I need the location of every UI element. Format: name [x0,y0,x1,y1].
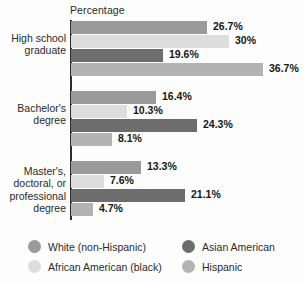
legend-swatch-icon [182,260,195,273]
bar-row: 21.1% [71,189,305,202]
bar-white-high-school[interactable] [71,21,207,34]
bar-hispanic-advanced-degree[interactable] [71,203,93,216]
legend-label-hispanic: Hispanic [202,261,242,273]
bar-value-asian-american-high-school: 19.6% [169,48,199,60]
category-label-line: doctoral, or [0,177,66,189]
category-label-line: High school [0,32,66,44]
bar-white-advanced-degree[interactable] [71,161,141,174]
category-label-bachelors: Bachelor's degree [0,102,66,127]
category-label-line: degree [0,202,66,214]
bar-row: 16.4% [71,91,305,104]
bar-value-african-american-high-school: 30% [235,34,256,46]
bar-asian-american-advanced-degree[interactable] [71,189,185,202]
bar-row: 7.6% [71,175,305,188]
bar-asian-american-bachelors[interactable] [71,119,197,132]
bar-value-hispanic-high-school: 36.7% [269,62,299,74]
legend-label-african-american: African American (black) [48,261,162,273]
bar-group-high-school: High school graduate 26.7% 30% 19.6% 36.… [0,20,305,80]
legend-item-white[interactable]: White (non-Hispanic) [28,240,146,253]
category-label-line: Bachelor's [0,102,66,114]
legend-label-asian-american: Asian American [202,241,275,253]
legend-swatch-icon [182,240,195,253]
legend-swatch-icon [28,240,41,253]
x-axis-title: Percentage [70,4,125,16]
bar-row: 4.7% [71,203,305,216]
bar-row: 10.3% [71,105,305,118]
bar-african-american-advanced-degree[interactable] [71,175,104,188]
bar-value-african-american-advanced-degree: 7.6% [110,174,134,186]
plot-area: High school graduate 26.7% 30% 19.6% 36.… [0,20,305,225]
legend-item-asian-american[interactable]: Asian American [182,240,275,253]
bar-hispanic-high-school[interactable] [71,63,263,76]
category-label-line: graduate [0,44,66,56]
bar-row: 26.7% [71,21,305,34]
legend-swatch-icon [28,260,41,273]
chart-legend: White (non-Hispanic) African American (b… [28,238,300,280]
bar-row: 19.6% [71,49,305,62]
bar-chart: Percentage High school graduate 26.7% 30… [0,0,305,284]
bar-row: 30% [71,35,305,48]
bar-value-white-bachelors: 16.4% [162,90,192,102]
bar-african-american-bachelors[interactable] [71,105,127,118]
legend-item-african-american[interactable]: African American (black) [28,260,162,273]
category-label-advanced-degree: Master's, doctoral, or professional degr… [0,165,66,215]
category-label-line: Master's, [0,165,66,177]
bar-value-white-high-school: 26.7% [213,20,243,32]
bar-hispanic-bachelors[interactable] [71,133,112,146]
bar-value-hispanic-advanced-degree: 4.7% [99,202,123,214]
bar-value-african-american-bachelors: 10.3% [133,104,163,116]
bar-value-white-advanced-degree: 13.3% [147,160,177,172]
bar-value-asian-american-advanced-degree: 21.1% [191,188,221,200]
category-label-line: degree [0,114,66,126]
bar-row: 36.7% [71,63,305,76]
bar-row: 13.3% [71,161,305,174]
bar-white-bachelors[interactable] [71,91,156,104]
legend-item-hispanic[interactable]: Hispanic [182,260,242,273]
category-label-line: professional [0,190,66,202]
bar-african-american-high-school[interactable] [71,35,229,48]
bar-row: 8.1% [71,133,305,146]
bar-group-advanced-degree: Master's, doctoral, or professional degr… [0,160,305,222]
category-label-high-school: High school graduate [0,32,66,57]
bar-row: 24.3% [71,119,305,132]
legend-label-white: White (non-Hispanic) [48,241,146,253]
bar-value-asian-american-bachelors: 24.3% [203,118,233,130]
bar-group-bachelors: Bachelor's degree 16.4% 10.3% 24.3% 8.1% [0,90,305,150]
bar-asian-american-high-school[interactable] [71,49,163,62]
bar-value-hispanic-bachelors: 8.1% [118,132,142,144]
